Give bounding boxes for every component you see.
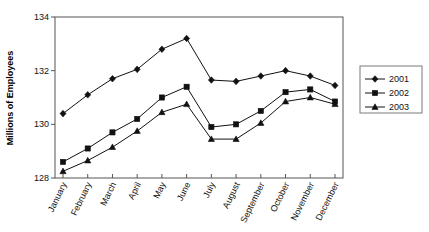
data-point-diamond [109, 75, 115, 82]
data-point-diamond [60, 110, 66, 117]
data-point-square [372, 90, 377, 95]
chart-canvas: 128130132134 JanuaryFebruaryMarchAprilMa… [0, 0, 429, 232]
x-tick-label: December [314, 180, 341, 222]
x-tick-label: January [46, 180, 69, 214]
legend-label-2003: 2003 [389, 102, 409, 112]
x-axis-ticks [63, 174, 335, 178]
series-2001 [60, 35, 338, 117]
series-line-2003 [63, 98, 335, 172]
plot-border-group [55, 17, 343, 178]
data-point-square [85, 146, 90, 151]
data-point-square [110, 130, 115, 135]
x-tick-label: February [69, 180, 94, 217]
data-point-diamond [233, 78, 239, 85]
x-tick-label: October [268, 180, 291, 213]
x-tick-label: May [151, 180, 168, 200]
x-tick-label: April [126, 180, 143, 201]
x-tick-label: August [221, 180, 242, 210]
series-line-2001 [63, 38, 335, 113]
data-point-triangle [184, 101, 190, 107]
data-point-diamond [208, 77, 214, 84]
data-point-square [258, 108, 263, 113]
x-tick-label: July [201, 180, 217, 199]
data-point-square [135, 116, 140, 121]
legend-label-2001: 2001 [389, 74, 409, 84]
data-point-triangle [134, 128, 140, 134]
data-point-diamond [258, 73, 264, 80]
chart-legend: 200120022003 [360, 66, 422, 113]
data-point-square [60, 159, 65, 164]
data-point-diamond [332, 82, 338, 89]
x-axis-labels: JanuaryFebruaryMarchAprilMayJuneJulyAugu… [46, 180, 341, 224]
data-point-square [159, 95, 164, 100]
y-tick-label: 134 [34, 12, 49, 22]
plot-area-border [55, 17, 343, 178]
data-point-diamond [85, 92, 91, 99]
y-tick-label: 128 [34, 173, 49, 183]
y-axis-title: Millions of Employees [5, 51, 15, 146]
data-point-triangle [85, 157, 91, 163]
y-tick-label: 132 [34, 66, 49, 76]
employment-line-chart: 128130132134 JanuaryFebruaryMarchAprilMa… [0, 0, 429, 232]
x-tick-label: November [289, 180, 316, 222]
data-point-diamond [307, 73, 313, 80]
legend-label-2002: 2002 [389, 88, 409, 98]
data-point-square [308, 87, 313, 92]
series-line-2002 [63, 87, 335, 162]
x-tick-label: September [238, 180, 266, 224]
y-tick-label: 130 [34, 119, 49, 129]
x-tick-label: June [175, 180, 193, 202]
data-point-triangle [307, 94, 313, 100]
data-point-square [184, 84, 189, 89]
data-point-diamond [283, 67, 289, 74]
y-axis-ticks: 128130132134 [34, 12, 55, 183]
data-point-diamond [184, 35, 190, 42]
data-point-square [233, 122, 238, 127]
data-point-square [283, 90, 288, 95]
series-group [60, 35, 338, 174]
data-point-square [209, 124, 214, 129]
data-point-triangle [109, 144, 115, 150]
x-tick-label: March [98, 180, 118, 207]
